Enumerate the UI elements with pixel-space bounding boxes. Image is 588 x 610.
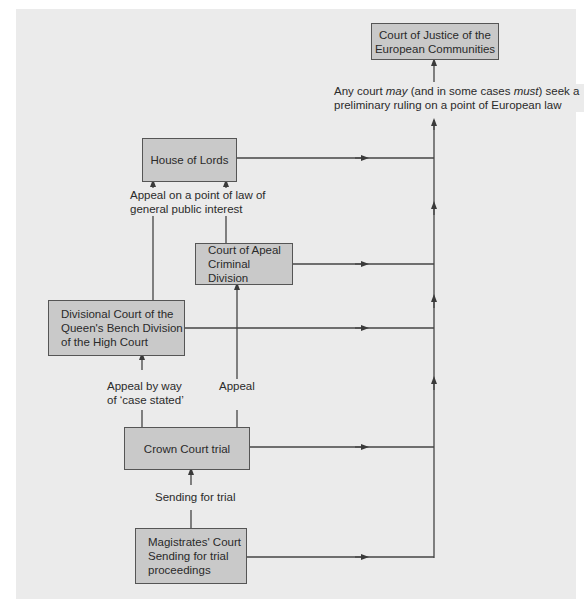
node-divisional-court: Divisional Court of the Queen's Bench Di… xyxy=(48,300,185,356)
label-appeal-point-of-law: Appeal on a point of law of general publ… xyxy=(130,188,266,216)
label-appeal-case-stated: Appeal by way of ‘case stated’ xyxy=(107,379,184,407)
node-court-of-appeal: Court of Apeal Criminal Division xyxy=(195,243,293,285)
cjec-line-1: Court of Justice of the xyxy=(375,28,495,42)
preliminary-ruling-line-2: preliminary ruling on a point of Europea… xyxy=(334,98,584,112)
node-crown-court: Crown Court trial xyxy=(124,427,250,470)
cjec-line-2: European Communities xyxy=(375,42,495,56)
label-preliminary-ruling: Any court may (and in some cases must) s… xyxy=(334,84,584,112)
node-magistrates-court: Magistrates' Court Sending for trial pro… xyxy=(135,528,247,584)
node-house-of-lords: House of Lords xyxy=(142,138,237,182)
label-appeal: Appeal xyxy=(219,379,255,393)
label-sending-for-trial: Sending for trial xyxy=(155,490,236,504)
node-cjec: Court of Justice of the European Communi… xyxy=(371,23,499,60)
